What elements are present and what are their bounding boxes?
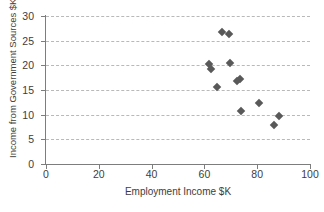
x-tick-label-60: 60 bbox=[184, 169, 224, 180]
x-tick-label-80: 80 bbox=[237, 169, 277, 180]
y-tick-mark-20 bbox=[41, 65, 46, 66]
gridline-y-15 bbox=[46, 90, 310, 91]
plot-area bbox=[46, 16, 310, 164]
gridline-y-10 bbox=[46, 115, 310, 116]
gridline-y-25 bbox=[46, 41, 310, 42]
y-tick-mark-10 bbox=[41, 115, 46, 116]
data-point bbox=[226, 59, 234, 67]
y-tick-mark-5 bbox=[41, 139, 46, 140]
y-tick-mark-30 bbox=[41, 16, 46, 17]
x-tick-label-40: 40 bbox=[132, 169, 172, 180]
data-point bbox=[225, 30, 233, 38]
x-tick-label-20: 20 bbox=[79, 169, 119, 180]
y-tick-mark-25 bbox=[41, 41, 46, 42]
scatter-chart: 051015202530 020406080100 Employment Inc… bbox=[0, 0, 324, 212]
x-axis-line bbox=[45, 164, 311, 165]
x-tick-label-0: 0 bbox=[26, 169, 66, 180]
gridline-y-5 bbox=[46, 139, 310, 140]
data-point bbox=[275, 112, 283, 120]
x-tick-label-100: 100 bbox=[290, 169, 324, 180]
x-axis-title: Employment Income $K bbox=[46, 186, 310, 197]
data-point bbox=[270, 121, 278, 129]
y-tick-label-0: 0 bbox=[0, 159, 34, 169]
y-tick-mark-15 bbox=[41, 90, 46, 91]
data-point bbox=[255, 99, 263, 107]
gridline-y-30 bbox=[46, 16, 310, 17]
gridline-y-20 bbox=[46, 65, 310, 66]
y-axis-title: Income from Government Sources $K bbox=[8, 8, 18, 158]
